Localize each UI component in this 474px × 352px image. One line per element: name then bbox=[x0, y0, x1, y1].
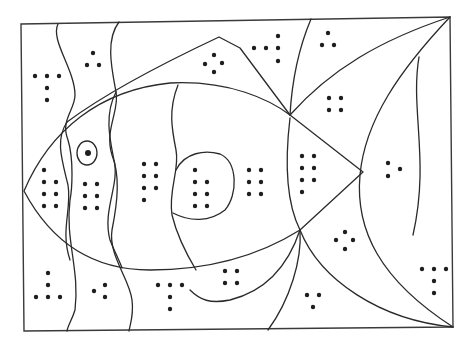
fish-body-outline bbox=[24, 83, 363, 270]
fish-coloring-worksheet: Fish dot-count coloring page bbox=[0, 0, 474, 352]
dots-tail-lower bbox=[334, 230, 355, 251]
dots-bg-bottom-2 bbox=[92, 283, 107, 299]
dots-tail-right bbox=[386, 161, 402, 178]
tail-right-curve bbox=[413, 57, 420, 235]
tail-lower-curve bbox=[300, 230, 453, 327]
divider-bottom-mid bbox=[268, 118, 300, 330]
dots-bg-bottom-left bbox=[34, 271, 62, 299]
dots-body-rear bbox=[300, 154, 316, 194]
dots-fin-top bbox=[203, 53, 224, 74]
tail-inner-curve bbox=[359, 17, 453, 327]
dots-tail-upper bbox=[327, 96, 343, 112]
dots-body-stripe-1 bbox=[83, 182, 99, 210]
dots-fin-bottom bbox=[223, 269, 239, 285]
dots-bg-top-4 bbox=[252, 34, 280, 63]
fin-top-outline bbox=[67, 37, 290, 122]
dots-bg-top-2 bbox=[85, 51, 101, 67]
tail-upper-curve bbox=[290, 17, 450, 115]
body-stripe-line-2 bbox=[108, 92, 122, 268]
dots-bg-bottom-right bbox=[420, 267, 448, 295]
dots-body-stripe-2 bbox=[142, 162, 158, 202]
dots-bg-bottom-3 bbox=[156, 283, 184, 311]
dots-body-mid bbox=[247, 168, 263, 196]
divider-top-mid bbox=[290, 19, 311, 115]
dots-bg-top-left bbox=[33, 74, 61, 102]
divider-left-2 bbox=[110, 22, 133, 331]
dots-body-spot bbox=[193, 168, 209, 208]
dots-bg-top-5 bbox=[320, 31, 336, 47]
dots-head bbox=[42, 168, 58, 208]
body-stripe-line-3 bbox=[171, 85, 196, 270]
eye-pupil bbox=[85, 150, 91, 156]
dots-bg-bottom-5 bbox=[305, 293, 321, 309]
body-spot-outline bbox=[173, 152, 234, 219]
worksheet-drawing bbox=[0, 0, 474, 352]
